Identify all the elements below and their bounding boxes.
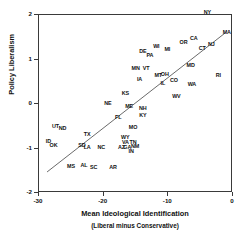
data-point-label: FL [115, 115, 121, 120]
data-point-label: CT [199, 46, 206, 51]
x-axis-subtitle: (Liberal minus Conservative) [38, 222, 232, 229]
x-tick [103, 192, 104, 196]
data-point-label: CO [170, 78, 178, 83]
data-point-label: SC [90, 166, 97, 171]
data-point-label: KS [122, 91, 129, 96]
y-tick-label: -1 [26, 144, 32, 150]
data-point-label: ME [125, 104, 133, 109]
data-point-label: PA [146, 54, 153, 59]
data-point-label: MD [187, 63, 195, 68]
x-axis-title: Mean Ideological Identification [38, 210, 232, 219]
data-point-label: WI [153, 44, 159, 49]
data-point-label: IA [137, 77, 142, 82]
plot-area: NYMACAORNJCTWIMIDEPAMDMNVTMTOHRIIACOILWA… [38, 14, 232, 192]
scatter-plot-figure: Policy Liberalism 210-1-2 -30-20-100 NYM… [0, 0, 249, 241]
data-point-label: NC [98, 145, 106, 150]
data-point-label: MI [164, 47, 170, 52]
data-point-label: MS [67, 164, 75, 169]
data-point-label: MN [132, 66, 140, 71]
data-point-label: RI [216, 74, 221, 79]
data-point-label: MO [129, 126, 137, 131]
data-point-label: VT [143, 66, 150, 71]
y-tick-label: -2 [26, 189, 32, 195]
data-point-label: AL [80, 163, 87, 168]
data-point-label: OR [180, 40, 188, 45]
data-point-label: DE [139, 50, 146, 55]
data-point-label: WA [188, 82, 196, 87]
x-tick-label: 0 [230, 198, 233, 204]
x-tick [38, 192, 39, 196]
x-tick-label: -20 [98, 198, 107, 204]
data-point-label: NH [139, 107, 147, 112]
data-point-label: NJ [208, 42, 215, 47]
data-point-label: KY [139, 114, 146, 119]
data-point-label: CA [190, 37, 198, 42]
x-tick-label: -30 [34, 198, 43, 204]
data-point-label: OK [50, 143, 58, 148]
data-point-label: AR [109, 166, 117, 171]
data-point-label: IL [161, 81, 166, 86]
y-axis-title: Policy Liberalism [8, 14, 17, 114]
data-point-label: NE [104, 102, 111, 107]
data-point-label: WV [172, 94, 180, 99]
data-point-label: NY [204, 10, 211, 15]
data-point-label: MA [223, 30, 231, 35]
data-point-label: IN [129, 149, 134, 154]
data-point-label: LA [84, 146, 91, 151]
data-point-label: ND [59, 127, 67, 132]
x-tick [167, 192, 168, 196]
data-point-label: OH [161, 72, 169, 77]
y-tick-label: 2 [29, 11, 32, 17]
y-tick-label: 0 [29, 100, 32, 106]
x-tick-label: -10 [163, 198, 172, 204]
data-point-label: TX [84, 132, 91, 137]
x-tick [232, 192, 233, 196]
y-tick-label: 1 [29, 55, 32, 61]
